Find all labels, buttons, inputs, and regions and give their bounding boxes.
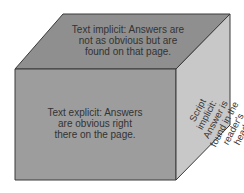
front-line-1: Text explicit: Answers [30,107,160,118]
top-line-1: Text implicit: Answers are [58,24,198,35]
top-line-3: found on that page. [58,46,198,57]
front-line-3: there on the page. [30,129,160,140]
top-line-2: not as obvious but are [58,35,198,46]
front-line-2: are obvious right [30,118,160,129]
top-face-label: Text implicit: Answers are not as obviou… [58,24,198,57]
front-face-label: Text explicit: Answers are obvious right… [30,107,160,140]
